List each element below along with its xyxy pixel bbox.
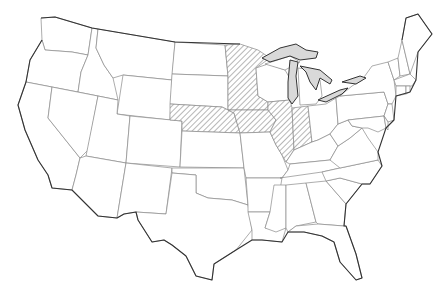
state-wyoming — [117, 75, 172, 120]
state-arizona — [72, 156, 126, 218]
state-north-dakota — [172, 42, 228, 76]
state-new-mexico — [117, 163, 172, 218]
us-map — [0, 0, 438, 295]
state-wisconsin — [256, 64, 292, 102]
state-kansas — [180, 131, 244, 168]
lake-michigan — [288, 60, 298, 104]
state-colorado — [126, 116, 182, 167]
state-washington — [41, 17, 92, 55]
